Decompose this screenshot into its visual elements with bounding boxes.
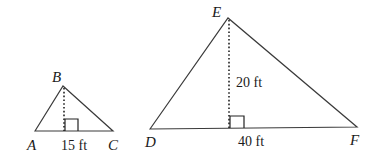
right-angle-marker-small bbox=[65, 119, 78, 131]
vertex-label-a: A bbox=[26, 137, 37, 153]
vertex-label-d: D bbox=[144, 134, 156, 150]
triangle-abc: B A C 15 ft bbox=[26, 69, 119, 153]
triangle-def: E D F 20 ft 40 ft bbox=[144, 4, 360, 150]
base-length-large: 40 ft bbox=[238, 134, 264, 149]
vertex-label-e: E bbox=[211, 4, 221, 20]
right-angle-marker-large bbox=[230, 116, 244, 128]
altitude-length-large: 20 ft bbox=[236, 75, 262, 90]
vertex-label-f: F bbox=[349, 132, 360, 148]
similar-triangles-diagram: B A C 15 ft E D F 20 ft 40 ft bbox=[0, 0, 380, 160]
triangle-abc-outline bbox=[35, 86, 113, 131]
vertex-label-c: C bbox=[108, 137, 119, 153]
base-length-small: 15 ft bbox=[61, 138, 87, 153]
triangle-def-outline bbox=[150, 18, 357, 129]
vertex-label-b: B bbox=[52, 69, 61, 85]
